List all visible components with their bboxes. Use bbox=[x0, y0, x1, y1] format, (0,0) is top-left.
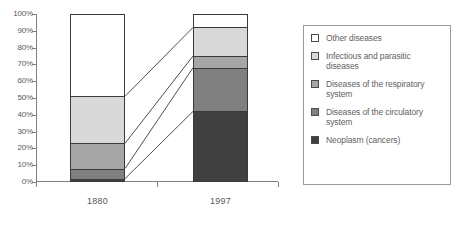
y-axis-tick-label: 30% bbox=[18, 128, 33, 136]
bar-segment[interactable] bbox=[70, 143, 125, 168]
legend-item[interactable]: Other diseases bbox=[311, 33, 444, 44]
legend-swatch-icon bbox=[311, 136, 319, 144]
legend-item-label: Other diseases bbox=[326, 33, 382, 44]
y-axis-labels: 0%10%20%30%40%50%60%70%80%90%100% bbox=[0, 0, 33, 225]
y-axis-tick-label: 90% bbox=[18, 27, 33, 35]
y-axis-tick-mark bbox=[32, 48, 37, 49]
y-axis-tick-mark bbox=[32, 64, 37, 65]
legend-item-label: Diseases of the respiratory system bbox=[326, 79, 444, 100]
legend-swatch-icon bbox=[311, 108, 319, 116]
bar-1997[interactable] bbox=[193, 14, 248, 182]
legend-swatch-icon bbox=[311, 52, 319, 60]
y-axis-tick-mark bbox=[32, 148, 37, 149]
plot-area bbox=[36, 14, 278, 182]
x-axis-tick-mark bbox=[36, 182, 37, 187]
legend-swatch-icon bbox=[311, 80, 319, 88]
bar-segment[interactable] bbox=[70, 169, 125, 179]
legend-item[interactable]: Diseases of the circulatory system bbox=[311, 107, 444, 128]
x-axis-tick-label: 1997 bbox=[181, 196, 261, 206]
y-axis-tick-label: 80% bbox=[18, 44, 33, 52]
legend-item-label: Diseases of the circulatory system bbox=[326, 107, 444, 128]
y-axis-tick-label: 10% bbox=[18, 161, 33, 169]
legend-item-label: Infectious and parasitic diseases bbox=[326, 51, 444, 72]
x-axis-tick-label: 1880 bbox=[58, 196, 138, 206]
legend-swatch-icon bbox=[311, 34, 319, 42]
stacked-bar-chart: 0%10%20%30%40%50%60%70%80%90%100% 188019… bbox=[0, 0, 290, 225]
legend-item[interactable]: Neoplasm (cancers) bbox=[311, 135, 444, 146]
legend-item[interactable]: Infectious and parasitic diseases bbox=[311, 51, 444, 72]
x-axis-tick-mark bbox=[157, 182, 158, 187]
bar-segment[interactable] bbox=[193, 56, 248, 68]
bar-segment[interactable] bbox=[193, 111, 248, 182]
bar-segment[interactable] bbox=[70, 179, 125, 182]
y-axis-tick-label: 50% bbox=[18, 94, 33, 102]
y-axis-tick-mark bbox=[32, 165, 37, 166]
y-axis-tick-mark bbox=[32, 132, 37, 133]
y-axis-tick-label: 100% bbox=[13, 10, 33, 18]
chart-legend: Other diseasesInfectious and parasitic d… bbox=[303, 25, 451, 185]
y-axis-tick-mark bbox=[32, 98, 37, 99]
legend-item[interactable]: Diseases of the respiratory system bbox=[311, 79, 444, 100]
bar-segment[interactable] bbox=[70, 96, 125, 143]
y-axis-tick-mark bbox=[32, 115, 37, 116]
bar-segment[interactable] bbox=[70, 14, 125, 96]
bar-segment[interactable] bbox=[193, 27, 248, 56]
legend-item-label: Neoplasm (cancers) bbox=[326, 135, 400, 146]
y-axis-tick-mark bbox=[32, 31, 37, 32]
connector-line bbox=[125, 27, 193, 96]
y-axis-tick-mark bbox=[32, 14, 37, 15]
y-axis-tick-label: 70% bbox=[18, 60, 33, 68]
y-axis-tick-label: 60% bbox=[18, 77, 33, 85]
bar-1880[interactable] bbox=[70, 14, 125, 182]
y-axis-tick-label: 40% bbox=[18, 111, 33, 119]
y-axis-tick-mark bbox=[32, 81, 37, 82]
bar-segment[interactable] bbox=[193, 14, 248, 27]
x-axis-tick-mark bbox=[278, 182, 279, 187]
connector-line bbox=[125, 56, 193, 143]
connector-line bbox=[125, 111, 193, 178]
connector-line bbox=[125, 68, 193, 169]
bar-segment[interactable] bbox=[193, 68, 248, 112]
y-axis-tick-label: 20% bbox=[18, 144, 33, 152]
